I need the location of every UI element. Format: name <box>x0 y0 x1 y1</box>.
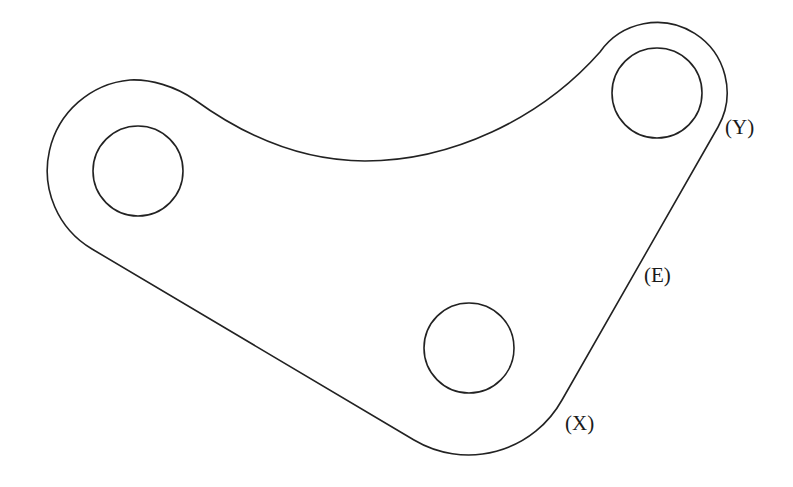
link-plate-diagram <box>0 0 793 487</box>
label-y: (Y) <box>725 117 754 138</box>
left-hole <box>93 126 183 216</box>
label-x: (X) <box>565 413 594 434</box>
label-e: (E) <box>644 265 671 286</box>
top-right-hole <box>612 48 702 138</box>
plate-outline <box>47 23 727 455</box>
bottom-hole <box>424 303 514 393</box>
